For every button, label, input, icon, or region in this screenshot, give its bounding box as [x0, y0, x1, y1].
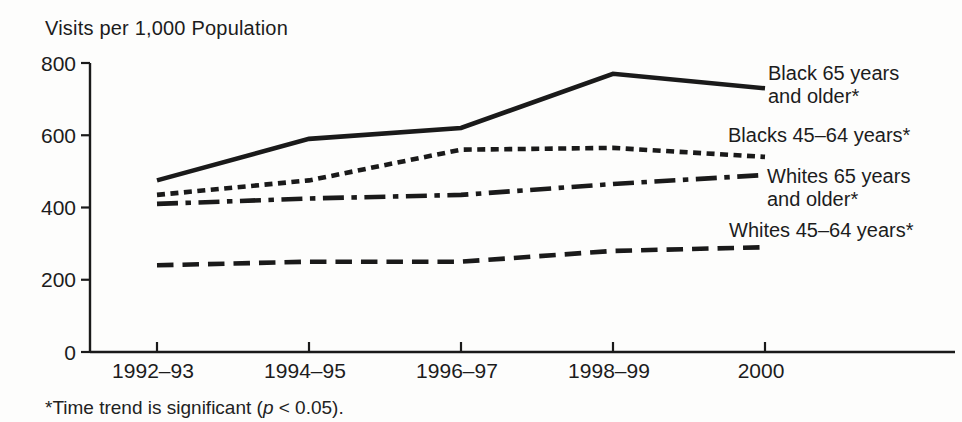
x-tick-label-1: 1994–95: [264, 359, 346, 382]
y-tick-label-600: 600: [41, 124, 76, 147]
y-tick-label-0: 0: [64, 341, 76, 364]
series-line-black-65-years-and-older: [157, 74, 765, 181]
series-label-black-65-years-and-older: Black 65 years and older*: [768, 62, 899, 108]
x-tick-label-2: 1996–97: [416, 359, 498, 382]
y-tick-label-200: 200: [41, 268, 76, 291]
chart-footnote: *Time trend is significant (p < 0.05).: [45, 397, 344, 419]
x-tick-label-4: 2000: [738, 359, 785, 382]
footnote-text-prefix: *Time trend is significant (: [45, 397, 263, 418]
series-line-whites-45-64-years: [157, 247, 765, 265]
x-tick-label-3: 1998–99: [568, 359, 650, 382]
x-tick-label-0: 1992–93: [112, 359, 194, 382]
series-label-blacks-45-64-years: Blacks 45–64 years*: [728, 124, 910, 147]
series-label-whites-65-years-and-older: Whites 65 years and older*: [767, 165, 910, 211]
line-chart-figure: Visits per 1,000 Population 020040060080…: [0, 0, 962, 422]
series-label-whites-45-64-years: Whites 45–64 years*: [729, 219, 914, 242]
footnote-p-symbol: p: [263, 397, 274, 418]
y-tick-label-400: 400: [41, 196, 76, 219]
y-tick-label-800: 800: [41, 52, 76, 75]
series-line-whites-65-years-and-older: [157, 175, 765, 204]
footnote-text-suffix: < 0.05).: [273, 397, 343, 418]
